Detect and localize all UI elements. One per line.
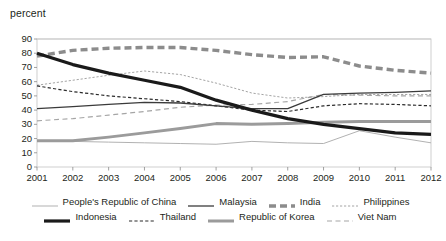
legend-item[interactable]: Indonesia bbox=[44, 211, 116, 222]
y-tick-label: 40 bbox=[10, 105, 32, 115]
legend-swatch-icon bbox=[327, 212, 353, 222]
legend-swatch-icon bbox=[269, 197, 295, 207]
x-tick-label: 2005 bbox=[163, 173, 197, 183]
y-tick-label: 0 bbox=[10, 162, 32, 172]
x-tick-label: 2008 bbox=[271, 173, 305, 183]
y-tick-label: 10 bbox=[10, 148, 32, 158]
legend-row-2: IndonesiaThailandRepublic of KoreaViet N… bbox=[0, 209, 441, 224]
legend-item[interactable]: Philippines bbox=[332, 196, 409, 207]
legend-item[interactable]: India bbox=[269, 196, 321, 207]
legend-label: Malaysia bbox=[219, 196, 257, 207]
chart-legend: People's Republic of ChinaMalaysiaIndiaP… bbox=[0, 194, 441, 224]
y-tick-label: 80 bbox=[10, 48, 32, 58]
axis-lines bbox=[37, 39, 431, 167]
legend-item[interactable]: People's Republic of China bbox=[32, 196, 177, 207]
x-tick-label: 2007 bbox=[235, 173, 269, 183]
x-tick-label: 2004 bbox=[127, 173, 161, 183]
legend-swatch-icon bbox=[32, 197, 58, 207]
y-tick-label: 50 bbox=[10, 91, 32, 101]
legend-swatch-icon bbox=[129, 212, 155, 222]
x-tick-label: 2009 bbox=[307, 173, 341, 183]
x-tick-label: 2006 bbox=[199, 173, 233, 183]
x-tick-label: 2001 bbox=[20, 173, 54, 183]
legend-item[interactable]: Thailand bbox=[129, 211, 196, 222]
legend-item[interactable]: Republic of Korea bbox=[208, 211, 315, 222]
legend-label: Viet Nam bbox=[358, 211, 397, 222]
legend-swatch-icon bbox=[208, 212, 234, 222]
legend-label: Philippines bbox=[363, 196, 409, 207]
y-tick-label: 70 bbox=[10, 62, 32, 72]
x-tick-label: 2012 bbox=[414, 173, 446, 183]
legend-item[interactable]: Viet Nam bbox=[327, 211, 397, 222]
legend-label: Thailand bbox=[160, 211, 196, 222]
legend-swatch-icon bbox=[188, 197, 214, 207]
legend-item[interactable]: Malaysia bbox=[188, 196, 257, 207]
legend-row-1: People's Republic of ChinaMalaysiaIndiaP… bbox=[0, 194, 441, 209]
legend-label: Republic of Korea bbox=[239, 211, 315, 222]
x-tick-label: 2011 bbox=[378, 173, 412, 183]
y-tick-label: 60 bbox=[10, 77, 32, 87]
series-lines bbox=[37, 48, 431, 145]
x-tick-label: 2003 bbox=[92, 173, 126, 183]
y-tick-label: 20 bbox=[10, 134, 32, 144]
y-tick-label: 30 bbox=[10, 119, 32, 129]
x-tick-label: 2002 bbox=[56, 173, 90, 183]
legend-label: People's Republic of China bbox=[63, 196, 177, 207]
y-tick-label: 90 bbox=[10, 34, 32, 44]
x-tick-label: 2010 bbox=[342, 173, 376, 183]
legend-swatch-icon bbox=[44, 212, 70, 222]
legend-label: India bbox=[300, 196, 321, 207]
legend-label: Indonesia bbox=[75, 211, 116, 222]
legend-swatch-icon bbox=[332, 197, 358, 207]
